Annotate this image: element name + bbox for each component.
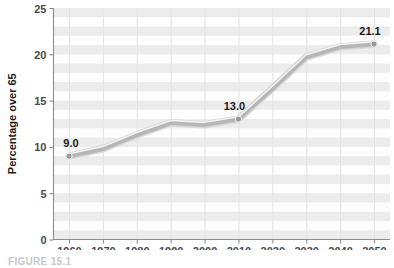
y-axis-tick-label: 0 <box>40 234 46 246</box>
x-axis-tick-group <box>70 240 375 244</box>
data-point-label: 13.0 <box>224 100 245 112</box>
data-point-label: 9.0 <box>63 137 78 149</box>
y-axis-tick-group <box>50 9 54 241</box>
y-axis-tick-label: 25 <box>34 3 46 15</box>
horizontal-band <box>54 64 390 73</box>
horizontal-band <box>54 193 390 202</box>
horizontal-band <box>54 212 390 221</box>
y-axis-tick-labels: 0510152025 <box>34 3 46 247</box>
horizontal-band <box>54 8 390 17</box>
data-point-marker <box>66 153 72 159</box>
horizontal-band <box>54 230 390 239</box>
y-axis-title: Percentage over 65 <box>6 73 18 174</box>
horizontal-band <box>54 175 390 184</box>
y-axis-tick-label: 20 <box>34 49 46 61</box>
x-axis-tick-label: 1980 <box>125 245 149 251</box>
horizontal-band <box>54 156 390 165</box>
horizontal-band <box>54 27 390 36</box>
data-point-marker <box>235 116 241 122</box>
figure-caption: FIGURE 15.1 <box>8 255 308 268</box>
x-axis-tick-label: 2050 <box>362 245 386 251</box>
figure-container: 0510152025 19601970198019902000201020202… <box>0 0 394 268</box>
x-axis-tick-label: 2030 <box>294 245 318 251</box>
y-axis-tick-label: 10 <box>34 141 46 153</box>
horizontal-band <box>54 101 390 110</box>
x-axis-tick-label: 2010 <box>227 245 251 251</box>
x-axis-tick-label: 2000 <box>193 245 217 251</box>
x-axis-tick-label: 2040 <box>328 245 352 251</box>
x-axis-tick-label: 1990 <box>159 245 183 251</box>
x-axis-tick-label: 2020 <box>261 245 285 251</box>
horizontal-band <box>54 82 390 91</box>
x-axis-tick-label: 1960 <box>57 245 81 251</box>
data-point-marker <box>371 41 377 47</box>
x-axis-tick-labels: 1960197019801990200020102020203020402050 <box>57 245 386 251</box>
y-axis-tick-label: 5 <box>40 188 46 200</box>
data-point-label: 21.1 <box>359 25 380 37</box>
y-axis-tick-label: 15 <box>34 95 46 107</box>
line-chart: 0510152025 19601970198019902000201020202… <box>0 0 394 250</box>
chart-canvas: 0510152025 19601970198019902000201020202… <box>0 0 394 250</box>
x-axis-tick-label: 1970 <box>91 245 115 251</box>
